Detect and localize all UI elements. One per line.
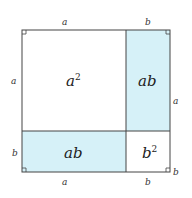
label-top-a: a bbox=[62, 17, 67, 27]
label-right-a: a bbox=[173, 96, 178, 106]
region-label-ab-top-right: ab bbox=[138, 72, 157, 90]
right-angle-marker-top-left bbox=[22, 30, 26, 34]
label-top-b: b bbox=[145, 17, 151, 27]
label-bottom-b: b bbox=[145, 177, 151, 187]
diagram-canvas: a b a b a b a b a2 ab ab b2 bbox=[0, 0, 192, 198]
exponent-2: 2 bbox=[75, 72, 81, 82]
base-b: b bbox=[142, 144, 152, 162]
label-left-b: b bbox=[12, 148, 18, 158]
region-label-a-squared: a2 bbox=[66, 72, 81, 90]
label-right-b: b bbox=[173, 167, 179, 177]
exponent-2: 2 bbox=[152, 144, 158, 154]
base-a: a bbox=[66, 72, 75, 90]
region-label-b-squared: b2 bbox=[142, 144, 157, 162]
right-angle-marker-bottom-right bbox=[166, 168, 170, 172]
label-bottom-a: a bbox=[62, 177, 67, 187]
label-left-a: a bbox=[11, 76, 16, 86]
region-label-ab-bottom-left: ab bbox=[64, 144, 83, 162]
